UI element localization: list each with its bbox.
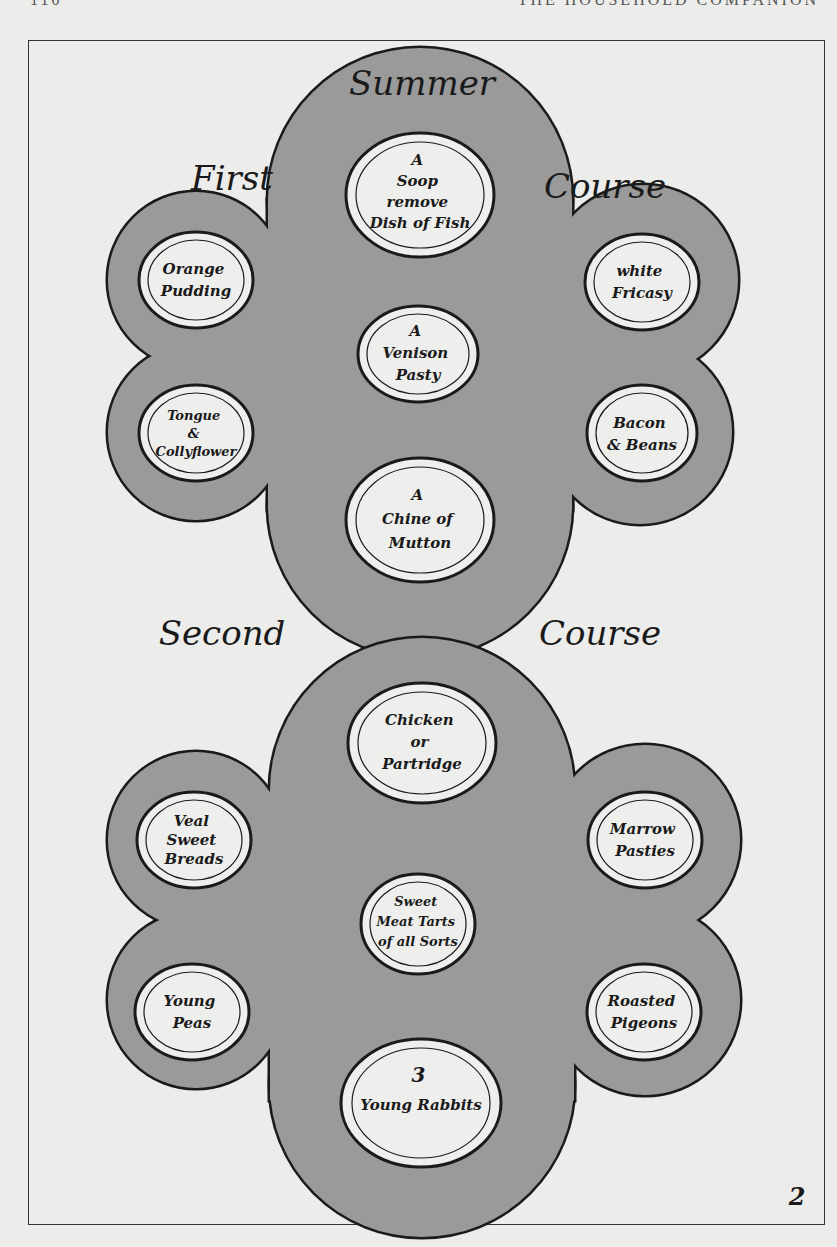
dish-plate: A Soop remove Dish of Fish (346, 133, 494, 257)
title-summer: Summer (349, 63, 497, 103)
dish-plate: Orange Pudding (139, 232, 253, 328)
dish-plate: white Fricasy (585, 234, 699, 330)
dish-plate: Chicken or Partridge (348, 683, 496, 803)
dish-plate: Roasted Pigeons (587, 964, 701, 1060)
dish-plate: Marrow Pasties (588, 792, 702, 888)
dish-plate: Tongue & Collyflower (139, 385, 253, 481)
second-course-label-left: Second (159, 613, 286, 653)
dish-plate: Sweet Meat Tarts of all Sorts (361, 874, 475, 974)
first-course-label-right: Course (544, 166, 666, 206)
dish-plate: Bacon & Beans (587, 385, 697, 481)
table-plan: Summer First Course Second Course A Soop… (0, 0, 837, 1247)
dish-plate: A Venison Pasty (358, 306, 478, 402)
dish-plate: 3 Young Rabbits (341, 1039, 501, 1167)
plate-number: 2 (788, 1182, 806, 1211)
dish-plate: Veal Sweet Breads (137, 792, 251, 888)
first-course-label-left: First (190, 158, 273, 198)
dish-plate: A Chine of Mutton (346, 458, 494, 582)
dish-plate: Young Peas (135, 964, 249, 1060)
second-course-label-right: Course (539, 613, 661, 653)
